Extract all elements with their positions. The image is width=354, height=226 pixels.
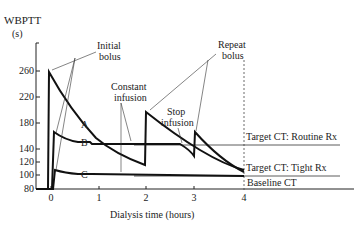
tight-label: Target CT: Tight Rx	[246, 162, 327, 173]
label-a: A	[81, 119, 89, 130]
svg-text:0: 0	[49, 192, 54, 203]
svg-text:4: 4	[242, 192, 247, 203]
svg-text:Repeat: Repeat	[218, 39, 246, 50]
svg-text:infusion: infusion	[161, 117, 194, 128]
svg-text:bolus: bolus	[222, 50, 244, 61]
svg-text:100: 100	[19, 169, 34, 180]
svg-text:260: 260	[19, 65, 34, 76]
svg-text:80: 80	[24, 183, 34, 194]
y-ticks: 260 220 180 140 120 100 80	[19, 65, 40, 194]
annotation-repeat: Repeat bolus	[218, 39, 246, 61]
baseline-label: Baseline CT	[247, 177, 297, 188]
annotation-initial: Initial bolus	[97, 40, 121, 62]
svg-text:infusion: infusion	[114, 92, 147, 103]
y-axis-label: WBPTT	[4, 14, 42, 26]
routine-label: Target CT: Routine Rx	[246, 131, 337, 142]
annotation-stop: Stop infusion	[161, 106, 194, 128]
curve-b	[36, 132, 244, 189]
curve-c	[36, 170, 244, 189]
svg-text:180: 180	[19, 117, 34, 128]
svg-text:Constant: Constant	[111, 81, 147, 92]
svg-text:bolus: bolus	[99, 51, 121, 62]
svg-text:2: 2	[144, 192, 149, 203]
svg-text:Initial: Initial	[97, 40, 121, 51]
wbptt-chart: WBPTT (s) 260 220 180 140 120 100 80 0 1…	[0, 0, 354, 226]
label-c: C	[81, 169, 88, 180]
svg-text:140: 140	[19, 143, 34, 154]
svg-text:3: 3	[192, 192, 197, 203]
svg-text:1: 1	[97, 192, 102, 203]
label-b: B	[81, 137, 88, 148]
y-axis-unit: (s)	[12, 28, 23, 40]
svg-text:120: 120	[19, 156, 34, 167]
annotation-constant: Constant infusion	[111, 81, 147, 103]
x-axis-label: Dialysis time (hours)	[110, 209, 194, 221]
svg-text:220: 220	[19, 91, 34, 102]
svg-text:Stop: Stop	[167, 106, 185, 117]
